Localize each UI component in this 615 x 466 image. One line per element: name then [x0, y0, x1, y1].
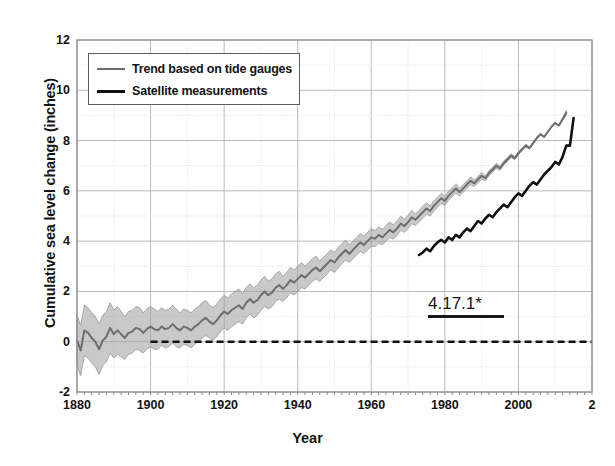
- figure-annotation-text: 4.17.1*: [428, 294, 482, 313]
- legend-line-swatch-tide-icon: [97, 68, 125, 70]
- figure-annotation: 4.17.1*: [428, 294, 504, 318]
- legend-line-swatch-satellite-icon: [97, 90, 125, 93]
- legend-label-satellite: Satellite measurements: [132, 84, 267, 98]
- legend: Trend based on tide gauges Satellite mea…: [88, 53, 300, 105]
- figure-annotation-underline: [428, 315, 504, 318]
- legend-label-tide-gauges: Trend based on tide gauges: [132, 62, 292, 76]
- legend-item-tide-gauges: Trend based on tide gauges: [97, 59, 292, 79]
- satellite-measurements-line: [419, 118, 573, 255]
- sea-level-chart-figure: Cumulative sea level change (inches) -20…: [0, 0, 615, 466]
- legend-item-satellite: Satellite measurements: [97, 81, 267, 101]
